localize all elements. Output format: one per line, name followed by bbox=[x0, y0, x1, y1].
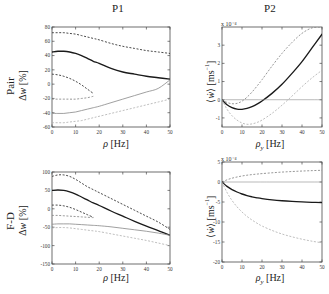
svg-text:0: 0 bbox=[47, 206, 50, 212]
svg-text:10: 10 bbox=[239, 264, 245, 270]
svg-text:-40: -40 bbox=[43, 110, 50, 116]
plot-fd-p2: 01020304050-20-15-10-505 bbox=[213, 159, 325, 270]
svg-text:-20: -20 bbox=[213, 259, 220, 265]
row-label-pair: Pair bbox=[4, 66, 16, 106]
svg-text:40: 40 bbox=[299, 129, 305, 135]
svg-text:40: 40 bbox=[144, 129, 150, 135]
curve-lower-dashed-light bbox=[52, 228, 170, 246]
svg-text:50: 50 bbox=[45, 187, 51, 193]
column-title-p2: P2 bbox=[218, 2, 322, 14]
svg-text:-150: -150 bbox=[40, 261, 50, 267]
svg-text:20: 20 bbox=[259, 129, 265, 135]
svg-text:0: 0 bbox=[51, 129, 54, 135]
svg-text:-100: -100 bbox=[40, 243, 50, 249]
curve-mean-solid-dark bbox=[52, 51, 170, 79]
y-axis-label-fd-p2: ⟨ẇ⟩ [ms−1] bbox=[204, 182, 215, 252]
svg-text:10: 10 bbox=[73, 266, 79, 272]
svg-text:0: 0 bbox=[217, 179, 220, 185]
curve-inner-upper-dashed-dark bbox=[52, 74, 93, 93]
svg-text:-60: -60 bbox=[43, 124, 50, 130]
svg-text:40: 40 bbox=[299, 264, 305, 270]
curve-mean-solid-dark bbox=[222, 34, 322, 109]
svg-text:0: 0 bbox=[217, 97, 220, 103]
curve-lower-solid-mid bbox=[52, 80, 170, 114]
plot-fd-p1: 01020304050-150-100-50050100 bbox=[40, 169, 173, 272]
row-label-fd: F-D bbox=[4, 201, 16, 241]
svg-text:40: 40 bbox=[45, 52, 51, 58]
curve-lower-dashed-light bbox=[222, 182, 322, 243]
svg-text:10: 10 bbox=[239, 129, 245, 135]
svg-text:20: 20 bbox=[97, 266, 103, 272]
curve-upper-dashed-dark bbox=[52, 175, 170, 230]
svg-text:0: 0 bbox=[47, 81, 50, 87]
svg-text:0: 0 bbox=[221, 264, 224, 270]
curve-mean-solid-dark bbox=[222, 182, 322, 203]
svg-text:30: 30 bbox=[120, 266, 126, 272]
y-axis-label-pair-p2: ⟨ẇ⟩ [ms−1] bbox=[204, 47, 215, 117]
svg-text:30: 30 bbox=[120, 129, 126, 135]
curve-inner-lower-dashed-mid bbox=[52, 96, 93, 99]
svg-text:10: 10 bbox=[73, 129, 79, 135]
svg-text:20: 20 bbox=[97, 129, 103, 135]
svg-text:2: 2 bbox=[217, 60, 220, 66]
figure-panel-grid: P1 P2 Pair F-D Δw [%] Δw [%] ⟨ẇ⟩ [ms−1] … bbox=[0, 0, 329, 294]
curve-upper-dashed-mid bbox=[222, 170, 322, 182]
curve-inner-lower-dashed-mid bbox=[52, 215, 93, 217]
svg-text:-1: -1 bbox=[216, 115, 221, 121]
svg-text:0: 0 bbox=[221, 129, 224, 135]
svg-text:80: 80 bbox=[45, 24, 51, 30]
curve-lower-dashed-light bbox=[222, 70, 322, 124]
curve-mean-solid-dark bbox=[52, 190, 170, 235]
svg-text:50: 50 bbox=[319, 264, 325, 270]
svg-text:30: 30 bbox=[279, 264, 285, 270]
x-axis-label-fd-p1: ρ [Hz] bbox=[60, 272, 172, 283]
curve-upper-dashed-mid bbox=[222, 27, 322, 104]
svg-text:100: 100 bbox=[42, 169, 50, 175]
column-title-p1: P1 bbox=[62, 2, 174, 14]
x-axis-label-pair-p2: ρy [Hz] bbox=[218, 138, 322, 152]
svg-text:1: 1 bbox=[217, 78, 220, 84]
svg-text:20: 20 bbox=[259, 264, 265, 270]
svg-text:0: 0 bbox=[51, 266, 54, 272]
y-axis-label-fd-p1: Δw [%] bbox=[17, 191, 28, 251]
svg-text:3: 3 bbox=[217, 42, 220, 48]
x-axis-label-fd-p2: ρy [Hz] bbox=[218, 272, 322, 286]
svg-text:40: 40 bbox=[144, 266, 150, 272]
svg-text:50: 50 bbox=[167, 266, 173, 272]
x-axis-label-pair-p1: ρ [Hz] bbox=[60, 138, 172, 149]
y-exponent-fd-p2: x 10⁻⁴ bbox=[221, 155, 237, 162]
svg-text:50: 50 bbox=[167, 129, 173, 135]
y-exponent-pair-p2: x 10⁻⁴ bbox=[221, 20, 237, 27]
plot-pair-p1: 01020304050-60-40-20020406080 bbox=[43, 24, 173, 135]
svg-text:60: 60 bbox=[45, 38, 51, 44]
curve-upper-dashed-dark bbox=[52, 33, 170, 54]
svg-text:50: 50 bbox=[319, 129, 325, 135]
svg-text:-20: -20 bbox=[43, 95, 50, 101]
y-axis-label-pair-p1: Δw [%] bbox=[17, 56, 28, 116]
curve-inner-upper-dashed-dark bbox=[52, 205, 93, 217]
svg-text:20: 20 bbox=[45, 67, 51, 73]
svg-text:-5: -5 bbox=[216, 199, 221, 205]
svg-text:30: 30 bbox=[279, 129, 285, 135]
svg-text:5: 5 bbox=[217, 159, 220, 165]
svg-text:-50: -50 bbox=[43, 224, 50, 230]
plot-pair-p2: 01020304050-10123 bbox=[216, 27, 325, 135]
